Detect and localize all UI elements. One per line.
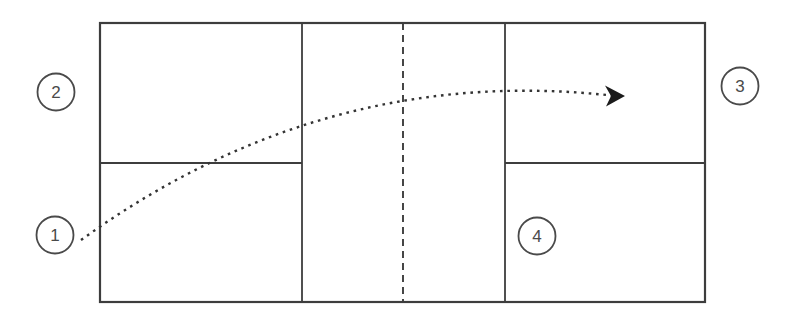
court-diagram-svg: 1 2 3 4 xyxy=(0,0,796,310)
trajectory-arrowhead-icon xyxy=(605,86,625,107)
position-marker-2-label: 2 xyxy=(51,83,60,102)
position-marker-4-label: 4 xyxy=(532,227,541,246)
court-diagram-canvas: 1 2 3 4 xyxy=(0,0,796,310)
position-marker-3-label: 3 xyxy=(735,77,744,96)
position-marker-1-label: 1 xyxy=(50,226,59,245)
